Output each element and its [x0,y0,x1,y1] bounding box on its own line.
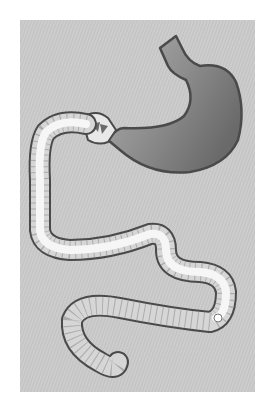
digestive-tract-illustration [0,0,271,409]
stomach [108,36,242,173]
